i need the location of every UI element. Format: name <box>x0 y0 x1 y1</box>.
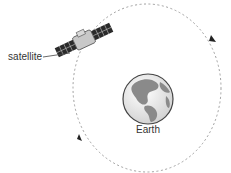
satellite-icon <box>53 18 115 59</box>
earth-globe-icon <box>123 74 173 124</box>
satellite-orbit-diagram: Earth satellite <box>0 0 231 173</box>
orbit-arrow-icon <box>209 35 216 42</box>
earth-label: Earth <box>136 124 160 135</box>
satellite-label: satellite <box>8 51 42 62</box>
satellite-leader-line <box>43 53 70 57</box>
orbit-arrow-icon <box>77 134 82 141</box>
